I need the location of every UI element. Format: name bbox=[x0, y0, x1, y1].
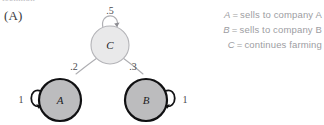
legend-row: C=continues farming bbox=[186, 37, 322, 52]
state-transition-graph: C A B .5 .2 .3 1 1 bbox=[0, 0, 190, 125]
node-a[interactable]: A bbox=[39, 79, 81, 121]
legend-symbol-b: B bbox=[223, 24, 230, 35]
edge-c-to-b-weight: .3 bbox=[129, 61, 137, 72]
legend: A=sells to company A B=sells to company … bbox=[186, 7, 322, 52]
legend-equals: = bbox=[230, 9, 240, 20]
self-loop-b-weight: 1 bbox=[183, 94, 188, 105]
edge-c-to-a-weight: .2 bbox=[70, 61, 78, 72]
figure-root: tecnmon (A) C bbox=[0, 0, 324, 125]
edge-c-to-a bbox=[76, 58, 97, 74]
self-loop-c-weight: .5 bbox=[106, 5, 114, 16]
node-b-label: B bbox=[143, 94, 150, 106]
legend-symbol-c: C bbox=[228, 39, 235, 50]
self-loop-a-weight: 1 bbox=[19, 94, 24, 105]
legend-description-a: sells to company A bbox=[240, 9, 322, 20]
legend-equals: = bbox=[235, 39, 245, 50]
legend-equals: = bbox=[230, 24, 240, 35]
node-c[interactable]: C bbox=[91, 26, 129, 64]
legend-row: A=sells to company A bbox=[186, 7, 322, 22]
node-a-label: A bbox=[56, 94, 64, 106]
node-b[interactable]: B bbox=[125, 79, 167, 121]
legend-description-c: continues farming bbox=[244, 39, 322, 50]
legend-row: B=sells to company B bbox=[186, 22, 322, 37]
node-c-label: C bbox=[106, 39, 114, 51]
legend-description-b: sells to company B bbox=[240, 24, 322, 35]
